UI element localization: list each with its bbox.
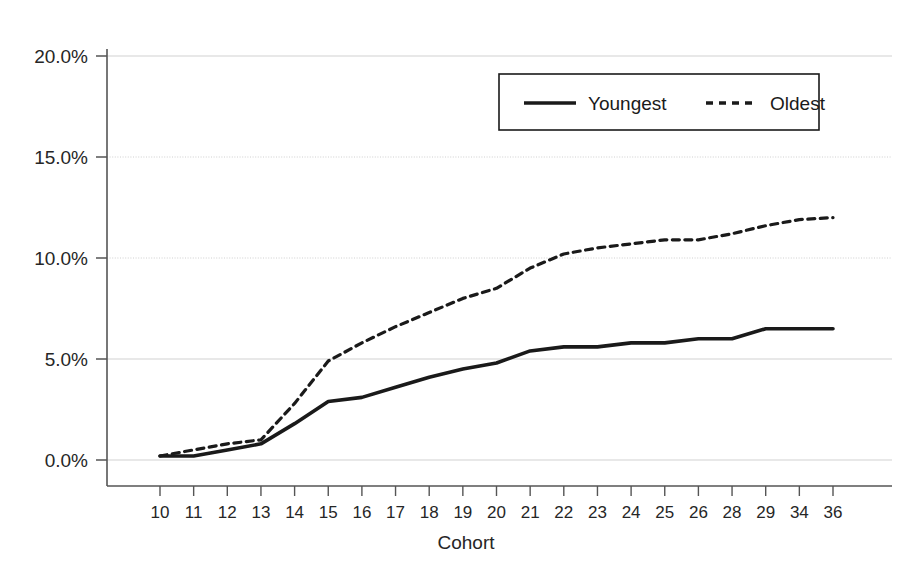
- x-tick-label-17: 17: [386, 503, 405, 522]
- x-tick-label-19: 19: [453, 503, 472, 522]
- x-tick-label-22: 22: [554, 503, 573, 522]
- x-axis-tick-labels: 1011121314151617181920212223242526282934…: [151, 503, 843, 522]
- y-tick-label-0.0%: 0.0%: [45, 450, 88, 471]
- x-tick-label-28: 28: [723, 503, 742, 522]
- x-tick-label-20: 20: [487, 503, 506, 522]
- x-tick-label-26: 26: [689, 503, 708, 522]
- x-tick-label-16: 16: [352, 503, 371, 522]
- x-tick-label-12: 12: [218, 503, 237, 522]
- legend-label-youngest: Youngest: [588, 93, 667, 114]
- x-tick-label-10: 10: [151, 503, 170, 522]
- x-axis-title: Cohort: [437, 532, 495, 553]
- legend-label-oldest: Oldest: [770, 93, 826, 114]
- x-tick-label-14: 14: [285, 503, 304, 522]
- x-tick-label-36: 36: [824, 503, 843, 522]
- y-tick-label-20.0%: 20.0%: [34, 46, 88, 67]
- chart-figure: 0.0%5.0%10.0%15.0%20.0% 1011121314151617…: [0, 0, 916, 581]
- x-axis-ticks: [160, 486, 833, 496]
- x-tick-label-11: 11: [185, 503, 203, 522]
- line-chart: 0.0%5.0%10.0%15.0%20.0% 1011121314151617…: [0, 0, 916, 581]
- x-tick-label-21: 21: [521, 503, 540, 522]
- y-tick-label-15.0%: 15.0%: [34, 147, 88, 168]
- x-tick-label-24: 24: [622, 503, 641, 522]
- chart-legend: Youngest Oldest: [499, 74, 826, 130]
- y-tick-label-10.0%: 10.0%: [34, 248, 88, 269]
- x-tick-label-25: 25: [655, 503, 674, 522]
- x-tick-label-15: 15: [319, 503, 338, 522]
- x-tick-label-23: 23: [588, 503, 607, 522]
- x-tick-label-13: 13: [251, 503, 270, 522]
- x-tick-label-18: 18: [420, 503, 439, 522]
- y-tick-label-5.0%: 5.0%: [45, 349, 88, 370]
- x-tick-label-34: 34: [790, 503, 809, 522]
- x-tick-label-29: 29: [756, 503, 775, 522]
